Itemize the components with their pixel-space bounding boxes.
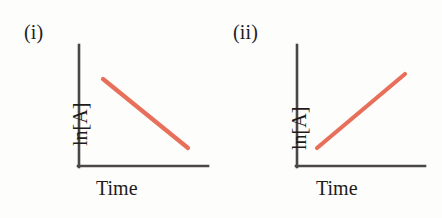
data-line-decreasing [103, 79, 188, 148]
y-axis-label-ii: ln[A] [289, 107, 309, 150]
plot-panel-i: (i) ln[A] Time [0, 0, 221, 218]
y-axis-label-i: ln[A] [70, 103, 90, 146]
x-axis-label-i: Time [96, 178, 138, 198]
kinetics-plot-figure: (i) ln[A] Time (ii) ln[A] Time [0, 0, 442, 218]
x-axis-label-ii: Time [316, 178, 358, 198]
data-line-increasing [317, 74, 405, 148]
plot-panel-ii: (ii) ln[A] Time [221, 0, 442, 218]
